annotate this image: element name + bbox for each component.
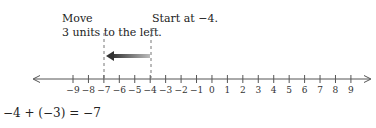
tick-label: 6 — [302, 85, 308, 95]
tick-label: −1 — [190, 85, 203, 95]
tick-label: 2 — [240, 85, 246, 95]
tick-label: 7 — [317, 85, 323, 95]
tick-label: 3 — [255, 85, 261, 95]
tick-label: −3 — [159, 85, 173, 95]
tick-label: 5 — [286, 85, 292, 95]
tick-label: −8 — [82, 85, 96, 95]
equation: −4 + (−3) = −7 — [3, 106, 101, 120]
tick-label: −5 — [128, 85, 142, 95]
tick-label: 0 — [209, 85, 215, 95]
tick-label: 4 — [271, 85, 277, 95]
tick-label: 9 — [348, 85, 354, 95]
tick-label: 8 — [333, 85, 339, 95]
tick-label: −2 — [174, 85, 187, 95]
number-line-ticks: −9−8−7−6−5−4−3−2−10123456789 — [66, 75, 354, 95]
tick-label: −9 — [66, 85, 80, 95]
tick-label: 1 — [225, 85, 231, 95]
tick-label: −7 — [97, 85, 111, 95]
move-left-arrow-icon — [106, 51, 150, 61]
tick-label: −6 — [113, 85, 127, 95]
tick-label: −4 — [144, 85, 158, 95]
